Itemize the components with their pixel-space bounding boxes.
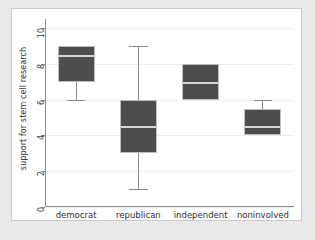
x-axis-line [45,206,294,207]
boxplot-independent [170,19,232,207]
x-axis-label-noninvolved: noninvolved [232,209,294,223]
whisker-cap-upper-republican [129,46,148,47]
x-axis-label-independent: independent [170,209,232,223]
x-axis-label-republican: republican [107,209,169,223]
whisker-lower-republican [138,153,139,189]
y-tick-label-8: 8 [38,64,46,69]
chart-figure: support for stem cell research 0246810 d… [11,8,302,221]
x-axis-label-democrat: democrat [45,209,107,223]
whisker-upper-noninvolved [262,100,263,109]
y-axis-title-text: support for stem cell research [19,46,28,169]
x-axis-labels: democratrepublicanindependentnoninvolved [45,209,294,223]
median-line-republican [121,126,156,128]
boxplot-body-democrat [58,19,95,207]
median-line-independent [183,82,218,84]
boxplot-body-independent [182,19,219,207]
boxplot-republican [107,19,169,207]
plot-region: 0246810 [45,19,294,207]
whisker-cap-upper-noninvolved [254,100,273,101]
whisker-cap-lower-republican [129,189,148,190]
y-axis-line [45,19,46,207]
median-line-noninvolved [245,126,280,128]
y-tick-label-2: 2 [38,171,46,176]
median-line-democrat [59,55,94,57]
y-tick-label-4: 4 [38,135,46,140]
box-republican [120,100,157,154]
whisker-upper-republican [138,46,139,100]
y-tick-label-10: 10 [38,28,46,38]
boxplot-body-noninvolved [244,19,281,207]
box-noninvolved [244,109,281,136]
box-independent [182,64,219,100]
y-tick-label-6: 6 [38,100,46,105]
boxplot-noninvolved [232,19,294,207]
boxplot-body-republican [120,19,157,207]
boxplot-democrat [45,19,107,207]
whisker-lower-democrat [76,82,77,100]
box-democrat [58,46,95,82]
y-axis-title: support for stem cell research [18,9,29,207]
whisker-cap-lower-democrat [67,100,86,101]
gridline-y-0 [46,207,294,208]
plot-data-area [45,19,294,207]
